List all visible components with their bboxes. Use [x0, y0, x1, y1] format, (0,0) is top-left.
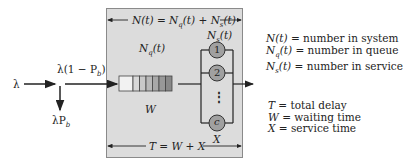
legend-times: T = total delay W = waiting time X = ser… — [268, 100, 361, 135]
queue-cell — [140, 76, 147, 91]
arrival-rate-label: λ — [13, 79, 20, 90]
service-time-label: X — [213, 134, 220, 145]
queue-cell — [146, 76, 153, 91]
queue-buffer — [119, 76, 172, 91]
legend-item-queue: Nq(t) = number in queue — [266, 45, 403, 62]
legend-item-service-time: X = service time — [268, 123, 361, 135]
server-ellipsis: ⋮ — [213, 91, 225, 103]
queue-cell — [153, 76, 160, 91]
service-count-label: Ns(t) — [207, 30, 232, 44]
queue-count-label: Nq(t) — [139, 43, 165, 57]
total-delay-equation: T = W + X — [149, 141, 205, 152]
queue-cell — [119, 76, 133, 91]
legend-counts: N(t) = number in system Nq(t) = number i… — [266, 33, 403, 78]
server-c-label: c — [214, 117, 220, 127]
legend-item-service: Ns(t) = number in service — [266, 61, 403, 78]
queue-cell — [159, 76, 166, 91]
queue-cell — [166, 76, 173, 91]
blocked-rate-label: λPb — [52, 115, 70, 129]
server-2-label: 2 — [214, 68, 220, 78]
admitted-rate-label: λ(1 − Pb) — [57, 64, 106, 78]
queue-cell — [133, 76, 140, 91]
waiting-time-label: W — [145, 104, 156, 115]
system-count-equation: N(t) = Nq(t) + Ns(t) — [132, 15, 236, 29]
server-1-label: 1 — [214, 45, 220, 55]
